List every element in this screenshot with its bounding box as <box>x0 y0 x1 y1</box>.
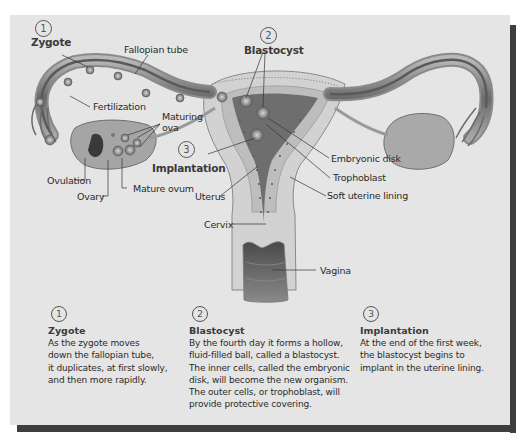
caption-line: The inner cells, called the embryonic <box>189 362 349 374</box>
blastocyst-number-badge: 2 <box>260 27 277 44</box>
caption-line: provide protective covering. <box>189 398 349 410</box>
caption-line: The outer cells, or trophoblast, will <box>189 386 349 398</box>
caption-blastocyst-text: By the fourth day it forms a hollow, flu… <box>189 337 349 411</box>
caption-blastocyst-number: 2 <box>192 306 208 322</box>
caption-zygote-number: 1 <box>51 306 67 322</box>
caption-implantation-text: At the end of the first week, the blasto… <box>360 337 505 374</box>
ovary-label: Ovary <box>77 191 104 202</box>
cervix-label: Cervix <box>204 219 233 230</box>
fertilization-label: Fertilization <box>93 101 146 112</box>
caption-line: disk, will become the new organism. <box>189 374 349 386</box>
fallopian-tube-label: Fallopian tube <box>124 44 188 55</box>
vagina-label: Vagina <box>320 265 351 276</box>
trophoblast-label: Trophoblast <box>333 172 386 183</box>
caption-line: implant in the uterine lining. <box>360 362 505 374</box>
caption-implantation-number: 3 <box>363 306 379 322</box>
embryonic-disk-label: Embryonic disk <box>331 153 401 164</box>
caption-line: the blastocyst begins to <box>360 349 505 361</box>
caption-line: fluid-filled ball, called a blastocyst. <box>189 349 349 361</box>
vagina-shape <box>243 242 288 302</box>
caption-blastocyst-title: Blastocyst <box>189 325 349 337</box>
zygote-number-badge: 1 <box>35 20 52 37</box>
caption-line: At the end of the first week, <box>360 337 505 349</box>
caption-implantation: 3 Implantation At the end of the first w… <box>360 306 505 374</box>
caption-line: By the fourth day it forms a hollow, <box>189 337 349 349</box>
caption-implantation-title: Implantation <box>360 325 505 337</box>
mature-ovum-label: Mature ovum <box>133 183 194 194</box>
zygote-label: Zygote <box>31 37 71 48</box>
implantation-number-badge: 3 <box>178 141 195 158</box>
soft-uterine-lining-label: Soft uterine lining <box>327 190 408 201</box>
ovulation-label: Ovulation <box>47 175 91 186</box>
caption-blastocyst: 2 Blastocyst By the fourth day it forms … <box>189 306 349 411</box>
maturing-ova-label-line1: Maturing <box>162 111 203 122</box>
implantation-label: Implantation <box>152 163 226 174</box>
uterus-label: Uterus <box>195 191 225 202</box>
blastocyst-label: Blastocyst <box>244 45 304 56</box>
maturing-ova-label-line2: ova <box>162 122 179 133</box>
